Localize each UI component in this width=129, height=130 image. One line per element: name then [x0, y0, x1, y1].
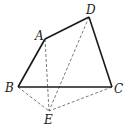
label-E: E: [43, 113, 53, 127]
segment-BE: [18, 87, 49, 111]
segment-AE: [45, 39, 49, 111]
segment-DE: [49, 17, 89, 111]
segment-AD: [45, 17, 89, 39]
segment-DC: [89, 17, 112, 87]
segment-BA: [18, 39, 45, 87]
segment-CE: [49, 87, 112, 111]
label-B: B: [4, 81, 14, 95]
solid-segments: [18, 17, 112, 87]
label-C: C: [114, 82, 123, 96]
label-A: A: [34, 29, 44, 43]
geometry-figure: A B C D E: [0, 0, 129, 130]
dashed-segments: [18, 17, 112, 111]
label-D: D: [85, 3, 96, 17]
